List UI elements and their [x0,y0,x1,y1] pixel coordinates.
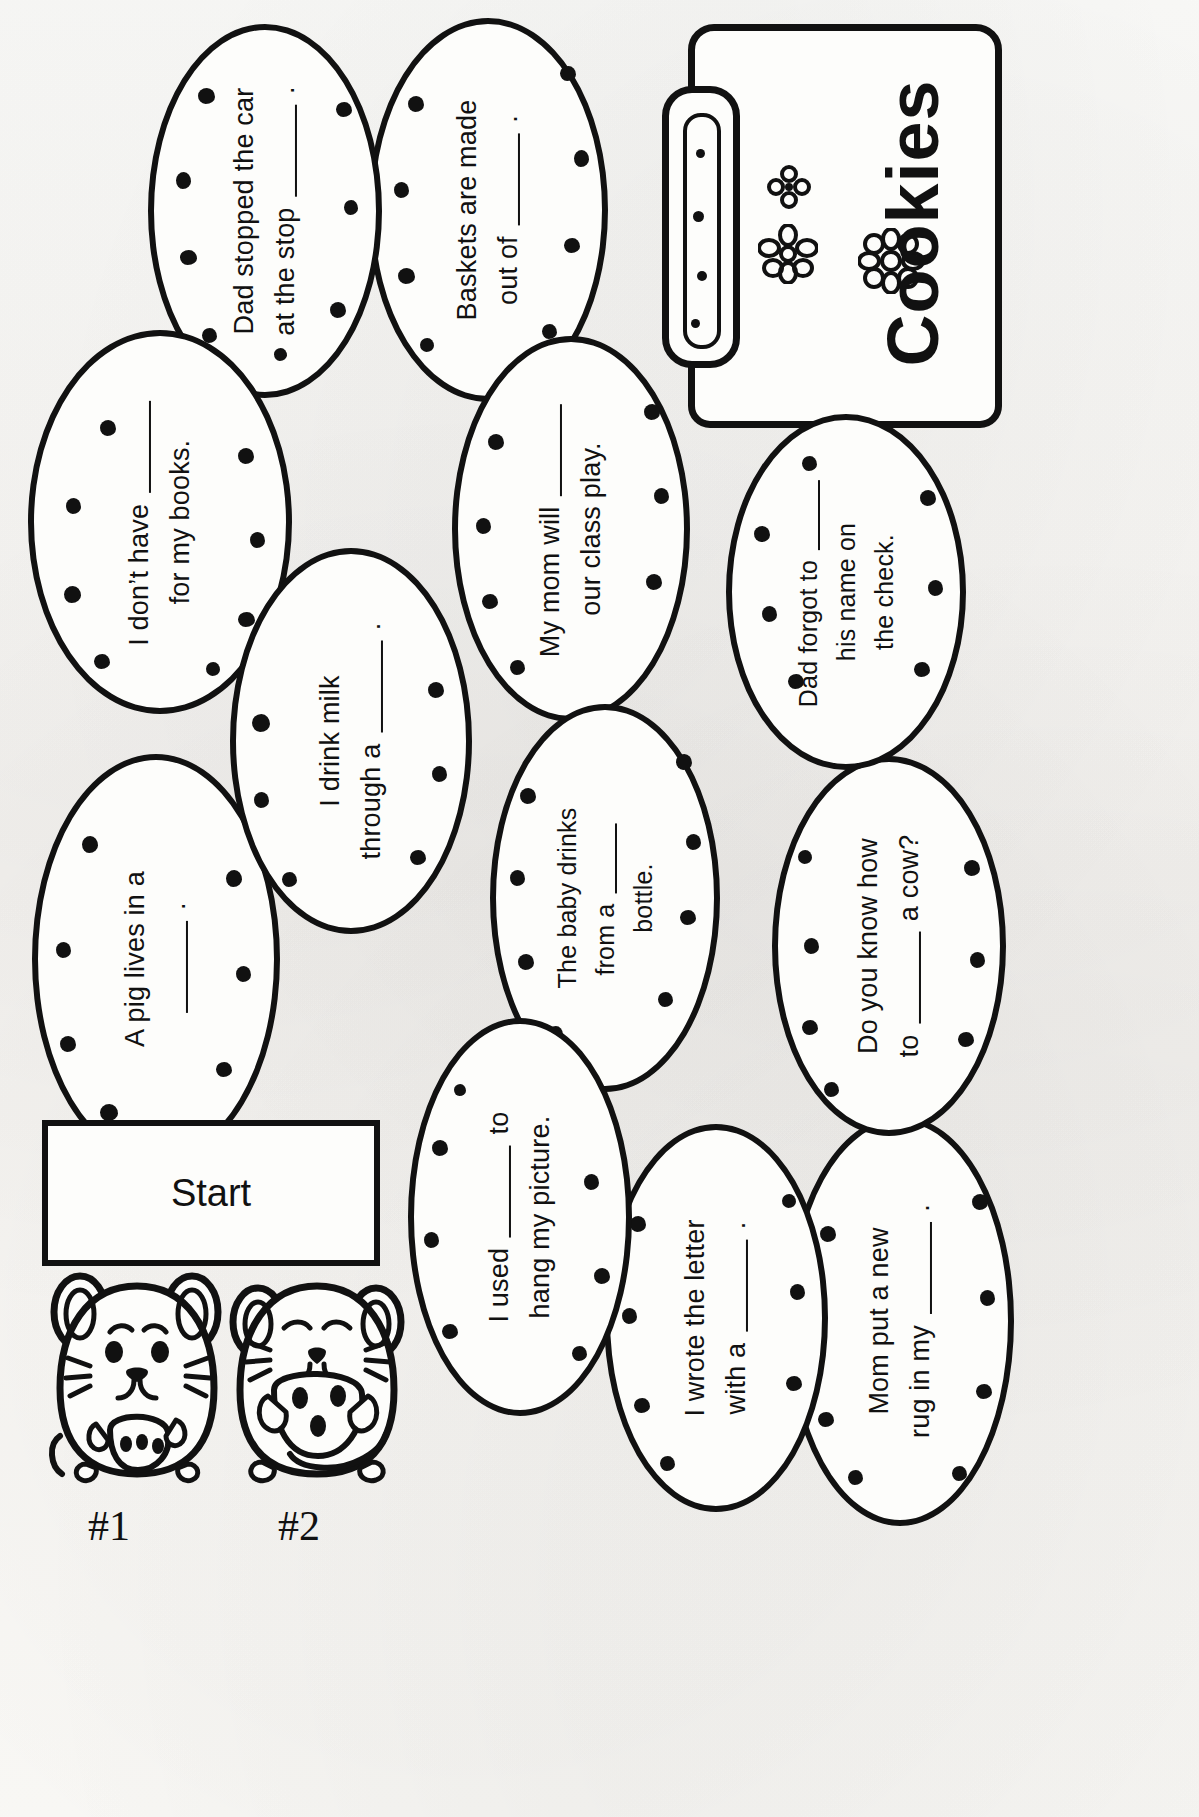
cookie-mom-play[interactable]: My mom will our class play. [452,336,690,722]
chocolate-chip [920,490,936,506]
chocolate-chip [274,348,287,361]
answer-blank[interactable] [149,401,151,493]
cookie-sentence: Dad stopped the car at the stop . [224,86,306,335]
chocolate-chip [100,420,116,436]
answer-blank[interactable] [746,1240,748,1332]
chocolate-chip [66,498,81,514]
answer-blank[interactable] [560,404,562,496]
chocolate-chip [60,1036,76,1052]
cookie-sentence: A pig lives in a . [115,871,197,1047]
cookie-sentence: I used to hang my picture. [479,1111,561,1322]
chocolate-chip [976,1384,992,1399]
jar-lid-chip [696,149,705,158]
cookie-wrote[interactable]: I wrote the letter with a . [604,1124,828,1512]
chocolate-chip [336,102,352,117]
chocolate-chip [56,942,71,958]
chocolate-chip [408,96,424,112]
answer-blank[interactable] [919,932,921,1024]
chocolate-chip [238,448,254,464]
answer-blank[interactable] [518,133,520,225]
chocolate-chip [646,574,662,590]
chocolate-chip [686,834,701,850]
answer-blank[interactable] [615,823,617,893]
chocolate-chip [94,654,110,669]
chocolate-chip [594,1268,610,1284]
cookie-sentence: Do you know how to a cow? [848,834,930,1057]
cookie-sentence: Dad forgot to his name on the check. [789,477,903,707]
chocolate-chip [64,586,81,603]
answer-blank[interactable] [295,105,297,197]
chocolate-chip [786,1376,802,1391]
chocolate-chip [282,872,297,887]
chocolate-chip [818,1412,834,1427]
chocolate-chip [676,754,692,770]
chocolate-chip [630,1216,646,1232]
chocolate-chip [488,434,504,450]
chocolate-chip [424,1232,439,1248]
jar-lid-chip [691,319,700,328]
chocolate-chip [802,1020,818,1035]
cookie-sentence: My mom will our class play. [530,401,612,657]
chocolate-chip [660,1456,675,1471]
chocolate-chip [952,1466,967,1481]
chocolate-chip [180,250,197,265]
chocolate-chip [802,456,817,471]
chocolate-chip [432,766,447,782]
chocolate-chip [432,1140,448,1156]
start-box[interactable]: Start [42,1120,380,1266]
chocolate-chip [804,938,819,954]
chocolate-chip [410,850,426,865]
cookie-sentence: I wrote the letter with a . [675,1219,757,1416]
chocolate-chip [584,1174,599,1190]
cookie-sentence: The baby drinks from a bottle. [548,808,662,989]
cookie-cow[interactable]: Do you know how to a cow? [772,756,1006,1136]
chocolate-chip [254,792,269,808]
chocolate-chip [394,182,409,198]
cookie-used-hang[interactable]: I used to hang my picture. [408,1018,632,1416]
chocolate-chip [634,1398,650,1413]
mouse-2-illustration [226,1272,408,1490]
cookie-jar-lid [662,86,740,368]
answer-blank[interactable] [818,480,820,550]
chocolate-chip [442,1324,458,1339]
chocolate-chip [176,172,191,189]
chocolate-chip [226,870,242,887]
answer-blank[interactable] [186,921,188,1013]
chocolate-chip [680,910,696,925]
chocolate-chip [958,1032,974,1047]
chocolate-chip [970,952,985,968]
chocolate-chip [482,594,498,609]
answer-blank[interactable] [381,641,383,733]
chocolate-chip [518,954,534,970]
jar-lid-chip [693,211,704,222]
chocolate-chip [236,966,251,982]
cookie-sentence: Mom put a new rug in my . [859,1204,941,1438]
chocolate-chip [100,1104,118,1121]
chocolate-chip [428,682,444,698]
chocolate-chip [824,1082,839,1097]
chocolate-chip [762,606,777,622]
chocolate-chip [658,992,673,1007]
chocolate-chip [622,1308,637,1324]
chocolate-chip [572,1346,587,1361]
chocolate-chip [82,836,98,853]
worksheet-page: Cookies Dad stopped the car at the stop … [0,0,1199,1817]
chocolate-chip [754,526,770,542]
chocolate-chip [510,660,525,675]
answer-blank[interactable] [509,1145,511,1237]
cookie-jar-label: Cookies [770,148,1056,298]
chocolate-chip [654,488,669,504]
chocolate-chip [964,860,980,876]
chocolate-chip [454,1084,466,1096]
mouse-2-number: #2 [278,1502,320,1550]
chocolate-chip [972,1194,988,1210]
chocolate-chip [574,150,589,167]
mouse-1-illustration [46,1268,228,1490]
chocolate-chip [782,1194,796,1208]
cookie-drink-milk[interactable]: I drink milk through a . [230,548,472,934]
chocolate-chip [420,338,434,352]
chocolate-chip [564,238,580,253]
cookie-dad-forgot[interactable]: Dad forgot to his name on the check. [726,414,966,770]
answer-blank[interactable] [930,1222,932,1314]
chocolate-chip [790,1284,805,1300]
